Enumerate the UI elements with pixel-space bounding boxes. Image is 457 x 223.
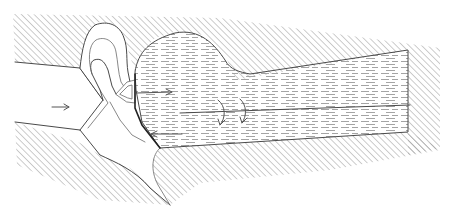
inlet-flow-arrow [52, 104, 69, 110]
flow-diagram [0, 0, 457, 223]
